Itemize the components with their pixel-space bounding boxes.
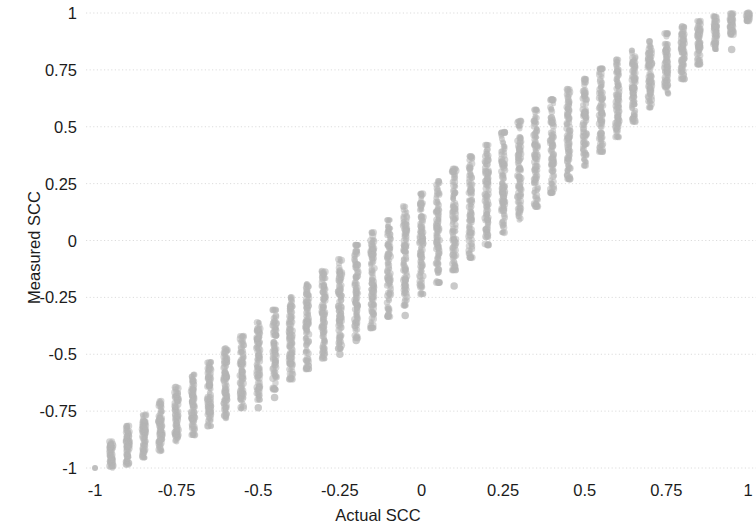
- x-tick-label: -0.25: [321, 482, 359, 499]
- x-tick-label: 0.75: [650, 482, 682, 499]
- x-tick-label: -0.5: [244, 482, 272, 499]
- x-tick-label: 0.5: [573, 482, 596, 499]
- x-axis-title: Actual SCC: [0, 506, 756, 525]
- x-tick-label: -1: [88, 482, 103, 499]
- y-tick-label: -1: [0, 460, 77, 477]
- x-tick-label: 0: [417, 482, 426, 499]
- x-tick-label: 0.25: [487, 482, 519, 499]
- y-tick-label: 1: [0, 5, 77, 22]
- x-tick-label: 1: [743, 482, 752, 499]
- y-tick-label: 0.75: [0, 62, 77, 79]
- y-tick-label: -0.5: [0, 346, 77, 363]
- scatter-plot-figure: -1-0.75-0.5-0.2500.250.50.751 -1-0.75-0.…: [0, 0, 756, 532]
- y-tick-label: -0.75: [0, 403, 77, 420]
- y-tick-label: 0.5: [0, 119, 77, 136]
- plot-canvas: [0, 0, 756, 532]
- x-tick-label: -0.75: [158, 482, 196, 499]
- y-axis-title: Measured SCC: [25, 168, 44, 328]
